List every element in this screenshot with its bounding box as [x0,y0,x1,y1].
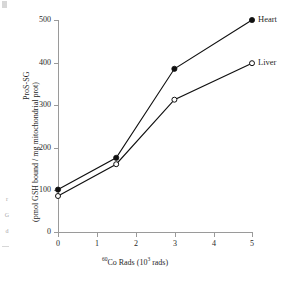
y-tick-100 [54,190,58,191]
x-tick-3 [175,233,176,237]
series-label-heart: Heart [258,15,277,24]
y-tick-200 [54,148,58,149]
x-tick-label-5: 5 [242,240,262,248]
x-axis-line [58,232,253,233]
x-tick-label-3: 3 [165,240,185,248]
y-axis-title-line1: ProS-SG [22,72,31,100]
data-point-heart-1 [114,155,119,160]
x-tick-label-2: 2 [126,240,146,248]
scan-artifact-top-mark [2,1,7,8]
data-point-heart-2 [172,66,177,71]
y-axis-title-line2: (pmol GSH bound / mg mitochondrial prot) [31,82,40,222]
y-tick-label-400: 400 [28,59,51,67]
gutter-mark-1: G [1,212,13,219]
series-label-liver: Liver [258,58,276,67]
x-axis-title-base: Co Rads (10 [107,258,147,267]
x-tick-5 [252,233,253,237]
x-tick-label-0: 0 [48,240,68,248]
gutter-mark-0: r [1,196,13,203]
x-tick-0 [58,233,59,237]
x-tick-1 [97,233,98,237]
x-tick-label-4: 4 [204,240,224,248]
y-axis-line [58,20,59,233]
x-tick-4 [214,233,215,237]
x-axis-title: 60Co Rads (103 rads) [10,258,260,267]
data-point-liver-2 [172,97,177,102]
x-tick-2 [136,233,137,237]
x-axis-title-tail: rads) [150,258,168,267]
data-point-liver-3 [250,61,255,66]
gutter-mark-2: d [1,228,13,235]
data-point-heart-3 [249,17,254,22]
series-line-liver [58,63,252,196]
y-tick-300 [54,105,58,106]
series-line-heart [58,20,252,190]
y-tick-label-500: 500 [28,16,51,24]
scan-artifact-dash [2,246,9,247]
y-tick-400 [54,63,58,64]
figure-chart-pros-sg-vs-co60-rads: r G d 500 400 300 200 100 0 ProS-SG (pmo… [0,0,288,282]
y-tick-500 [54,20,58,21]
data-point-liver-1 [114,162,119,167]
x-tick-label-1: 1 [87,240,107,248]
y-tick-label-0: 0 [28,228,51,236]
